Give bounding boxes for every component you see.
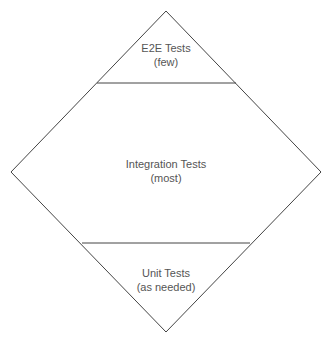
section-title: E2E Tests	[141, 42, 191, 54]
testing-diamond-diagram: E2E Tests (few) Integration Tests (most)…	[0, 0, 329, 347]
section-subtitle: (most)	[150, 172, 181, 184]
section-title: Unit Tests	[142, 267, 191, 279]
section-subtitle: (as needed)	[137, 281, 196, 293]
section-subtitle: (few)	[154, 56, 178, 68]
section-title: Integration Tests	[126, 158, 207, 170]
